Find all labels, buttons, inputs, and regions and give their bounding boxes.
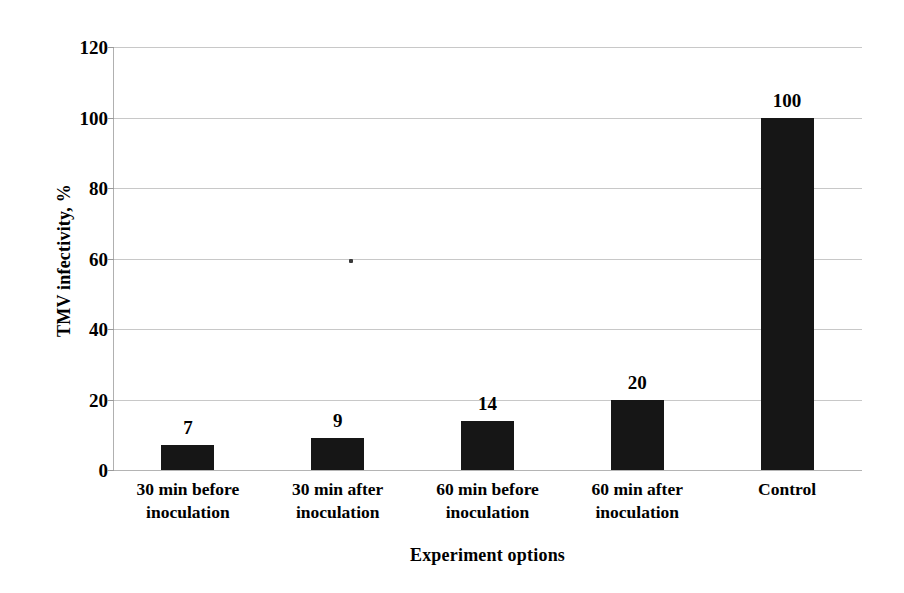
y-axis-tick-label: 100 bbox=[54, 109, 108, 128]
x-axis-category-label: 30 min beforeinoculation bbox=[113, 478, 263, 525]
gridline bbox=[113, 118, 862, 119]
y-axis-tick-label: 60 bbox=[54, 250, 108, 269]
y-axis-tick-label: 20 bbox=[54, 391, 108, 410]
y-axis-tick-label: 120 bbox=[54, 38, 108, 57]
y-axis-tick-label: 40 bbox=[54, 320, 108, 339]
y-axis-tick-mark bbox=[107, 259, 114, 260]
bar-chart-figure: TMV infectivity, % 020406080100120 79142… bbox=[0, 0, 904, 593]
y-axis-tick-labels: 020406080100120 bbox=[44, 0, 108, 593]
gridline bbox=[113, 470, 862, 471]
gridline bbox=[113, 47, 862, 48]
category-label-line1: 60 min before bbox=[436, 479, 539, 499]
gridline bbox=[113, 259, 862, 260]
category-label-line1: 60 min after bbox=[592, 479, 683, 499]
x-axis-category-label: Control bbox=[712, 478, 862, 501]
bar-value-label: 7 bbox=[128, 418, 248, 437]
bar bbox=[761, 118, 814, 471]
y-axis-tick-mark bbox=[107, 47, 114, 48]
y-axis-tick-mark bbox=[107, 470, 114, 471]
category-label-line1: 30 min after bbox=[292, 479, 383, 499]
category-label-line1: Control bbox=[758, 479, 816, 499]
category-label-line2: inoculation bbox=[113, 501, 263, 524]
category-label-line2: inoculation bbox=[562, 501, 712, 524]
x-axis-title: Experiment options bbox=[113, 545, 862, 566]
category-label-line2: inoculation bbox=[263, 501, 413, 524]
x-axis-category-label: 60 min afterinoculation bbox=[562, 478, 712, 525]
y-axis-tick-mark bbox=[107, 329, 114, 330]
y-axis-tick-mark bbox=[107, 118, 114, 119]
gridline bbox=[113, 188, 862, 189]
category-label-line2: inoculation bbox=[413, 501, 563, 524]
x-axis-category-label: 60 min beforeinoculation bbox=[413, 478, 563, 525]
y-axis-tick-label: 80 bbox=[54, 179, 108, 198]
bar-value-label: 14 bbox=[428, 394, 548, 413]
scan-artifact-speck bbox=[349, 259, 353, 263]
x-axis-category-labels: 30 min beforeinoculation30 min afterinoc… bbox=[113, 478, 862, 540]
bar-value-label: 20 bbox=[577, 373, 697, 392]
y-axis-tick-label: 0 bbox=[54, 461, 108, 480]
category-label-line1: 30 min before bbox=[137, 479, 240, 499]
y-axis-tick-mark bbox=[107, 188, 114, 189]
y-axis-tick-mark bbox=[107, 400, 114, 401]
bar bbox=[461, 421, 514, 470]
bar bbox=[311, 438, 364, 470]
gridline bbox=[113, 329, 862, 330]
bar-value-label: 9 bbox=[278, 411, 398, 430]
x-axis-category-label: 30 min afterinoculation bbox=[263, 478, 413, 525]
bar bbox=[161, 445, 214, 470]
bar-value-label: 100 bbox=[727, 91, 847, 110]
bar bbox=[611, 400, 664, 471]
